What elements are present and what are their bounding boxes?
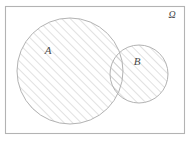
set-a-shading xyxy=(17,18,123,124)
venn-diagram-canvas: A B Ω xyxy=(0,0,190,143)
set-a-label: A xyxy=(44,44,52,56)
universe-label: Ω xyxy=(168,9,175,20)
set-b-label: B xyxy=(134,55,141,67)
venn-diagram-figure: A B Ω xyxy=(0,0,190,143)
